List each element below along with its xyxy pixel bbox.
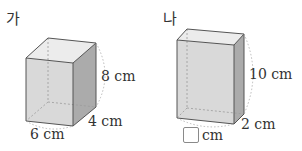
na-depth-label: 2 cm (241, 116, 275, 132)
figure-ga-label: 가 (6, 10, 20, 28)
na-width-unit-label: cm (202, 127, 223, 143)
diagram-canvas: 가 8 cm 4 cm 6 cm 나 (0, 0, 302, 151)
na-height-label: 10 cm (249, 66, 292, 82)
ga-front-face (26, 58, 73, 126)
figure-na: 나 10 cm 2 cm cm (163, 10, 292, 143)
na-width-answer-box[interactable] (183, 127, 199, 143)
ga-width-label: 6 cm (30, 126, 64, 142)
figure-ga: 가 8 cm 4 cm 6 cm (6, 10, 135, 142)
figure-na-label: 나 (163, 10, 177, 28)
ga-depth-label: 4 cm (88, 113, 122, 129)
na-front-face (177, 40, 234, 124)
ga-height-label: 8 cm (101, 68, 135, 84)
na-side-face (234, 34, 244, 124)
